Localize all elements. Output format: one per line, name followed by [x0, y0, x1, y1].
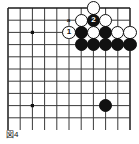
go-stone-white[interactable]	[87, 1, 100, 14]
go-stone-white[interactable]	[87, 26, 100, 39]
go-stone-black[interactable]	[75, 26, 88, 39]
star-point	[31, 104, 34, 107]
go-stone-white[interactable]	[123, 26, 136, 39]
star-point	[31, 31, 34, 34]
go-stone-black[interactable]	[75, 38, 88, 51]
go-diagram-figure: 21 a 図4	[0, 0, 139, 144]
go-stone-black[interactable]	[87, 38, 100, 51]
stone-move-number: 1	[63, 27, 74, 38]
board-point-marker-a[interactable]: a	[67, 17, 71, 24]
go-stone-black[interactable]: 2	[87, 14, 100, 27]
go-stone-white[interactable]	[99, 14, 112, 27]
go-stone-black[interactable]	[123, 38, 136, 51]
go-stone-black[interactable]	[99, 26, 112, 39]
go-stone-white[interactable]	[75, 14, 88, 27]
go-stone-white[interactable]: 1	[62, 26, 75, 39]
figure-caption: 図4	[6, 131, 18, 140]
stone-move-number: 2	[88, 15, 99, 26]
